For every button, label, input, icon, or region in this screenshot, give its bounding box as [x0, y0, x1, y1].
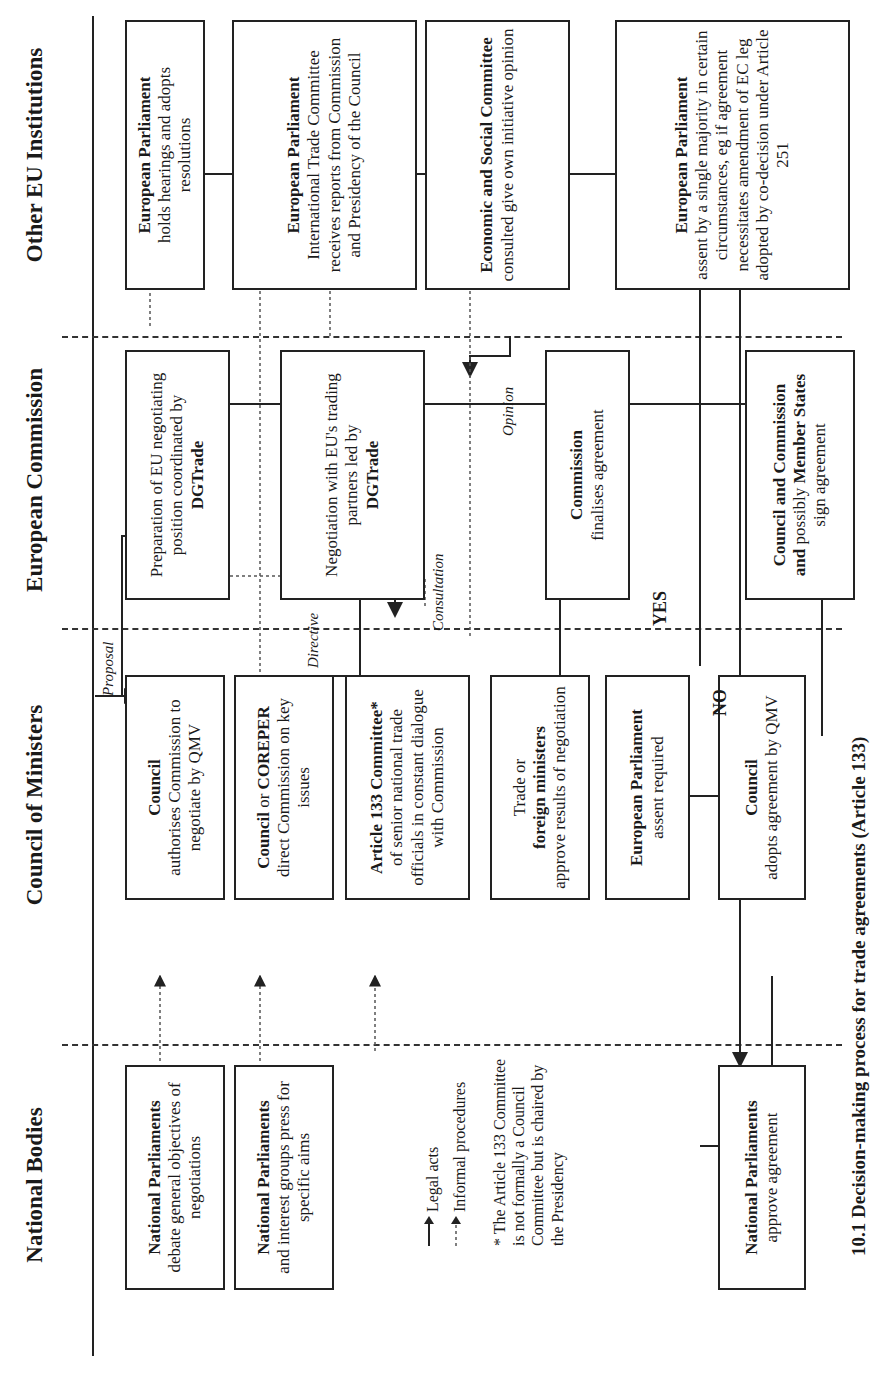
label-directive: Directive — [305, 613, 322, 668]
box-text: direct Commission on key issues — [274, 683, 314, 892]
box-ep-trade-committee: European Parliament International Trade … — [232, 20, 417, 290]
box-title: National Parliaments — [254, 1073, 274, 1282]
box-text: authorises Commission to negotiate by QM… — [165, 683, 205, 892]
box-national-parliaments-debate: National Parliaments debate general obje… — [125, 1065, 225, 1290]
box-text: holds hearings and adopts resolutions — [155, 28, 195, 282]
box-text: International Trade Committee receives r… — [304, 28, 364, 282]
box-sign-agreement: Council and Commission and possibly Memb… — [745, 350, 855, 600]
box-text: and interest groups press for specific a… — [274, 1073, 314, 1282]
box-title: Economic and Social Committee — [477, 28, 497, 282]
label-yes: YES — [650, 591, 671, 626]
box-national-parliaments-interest: National Parliaments and interest groups… — [234, 1065, 334, 1290]
box-title: Article 133 Committee* — [367, 683, 387, 892]
box-ep-hearings: European Parliament holds hearings and a… — [125, 20, 205, 290]
box-title: DGTrade — [188, 358, 208, 592]
box-ep-assent-required: European Parliament assent required — [605, 675, 690, 900]
label-proposal: Proposal — [100, 642, 117, 696]
label-opinion: Opinion — [500, 387, 517, 436]
box-title: Commission — [567, 358, 587, 592]
box-title: European Parliament — [135, 28, 155, 282]
legend-informal: Informal procedures — [447, 1082, 469, 1246]
box-text: of senior national trade officials in co… — [387, 683, 447, 892]
footnote: * The Article 133 Committee is not forma… — [490, 1046, 567, 1246]
bold-text: Member States — [790, 374, 809, 484]
box-commission-finalises: Commission finalises agreement — [545, 350, 630, 600]
box-title: Council — [742, 683, 762, 892]
box-text: finalises agreement — [588, 358, 608, 592]
box-title: European Parliament — [672, 28, 692, 282]
box-title: National Parliaments — [742, 1073, 762, 1282]
diagram-stage: National Bodies Council of Ministers Eur… — [0, 0, 891, 1396]
box-text: Preparation of EU negotiating position c… — [147, 358, 187, 592]
box-text: approve results of negotiation — [550, 683, 570, 892]
text: or — [254, 794, 273, 808]
box-text: consulted give own initiative opinion — [498, 28, 518, 282]
box-text: approve agreement — [762, 1073, 782, 1282]
box-text: Trade or — [510, 683, 530, 892]
box-national-parliaments-approve: National Parliaments approve agreement — [718, 1065, 806, 1290]
box-text: adopts agreement by QMV — [762, 683, 782, 892]
box-text: and possibly Member States — [790, 358, 810, 592]
box-prep-negotiating-position: Preparation of EU negotiating position c… — [125, 350, 230, 600]
figure-caption: 10.1 Decision-making process for trade a… — [848, 737, 870, 1256]
box-trade-ministers: Trade or foreign ministers approve resul… — [490, 675, 590, 900]
box-council-adopts: Council adopts agreement by QMV — [718, 675, 806, 900]
box-title: foreign ministers — [530, 683, 550, 892]
box-text: assent by a single majority in certain c… — [692, 28, 792, 282]
text: possibly — [790, 488, 809, 545]
box-title: Council and Commission — [770, 358, 790, 592]
legend-label: Legal acts — [424, 1147, 441, 1212]
label-no: NO — [710, 689, 731, 716]
box-ep-assent-majority: European Parliament assent by a single m… — [615, 20, 850, 290]
legend-label: Informal procedures — [451, 1082, 468, 1212]
dotted-arrow-icon — [447, 1216, 465, 1246]
box-text: assent required — [648, 683, 668, 892]
box-council-coreper: Council or COREPER direct Commission on … — [234, 675, 334, 900]
bold-text: Council — [254, 812, 273, 869]
box-text: Negotiation with EU's trading partners l… — [322, 358, 362, 592]
legend-legal-acts: Legal acts — [420, 1147, 442, 1246]
box-title: Council — [145, 683, 165, 892]
solid-arrow-icon — [420, 1216, 438, 1246]
bold-text: COREPER — [254, 706, 273, 789]
box-text: sign agreement — [810, 358, 830, 592]
box-title: Council or COREPER — [254, 683, 274, 892]
bold-text: and — [790, 549, 809, 576]
box-negotiation: Negotiation with EU's trading partners l… — [280, 350, 425, 600]
box-title: National Parliaments — [145, 1073, 165, 1282]
box-title: European Parliament — [627, 683, 647, 892]
box-economic-social-committee: Economic and Social Committee consulted … — [425, 20, 570, 290]
box-title: DGTrade — [363, 358, 383, 592]
box-text: debate general objectives of negotiation… — [165, 1073, 205, 1282]
box-article-133-committee: Article 133 Committee* of senior nationa… — [345, 675, 470, 900]
box-council-authorises: Council authorises Commission to negotia… — [125, 675, 225, 900]
box-title: European Parliament — [284, 28, 304, 282]
label-consultation: Consultation — [430, 553, 447, 631]
